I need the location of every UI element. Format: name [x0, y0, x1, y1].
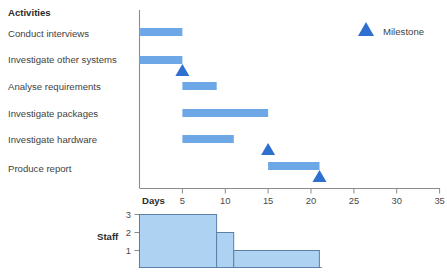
x-axis-label: Days [142, 195, 165, 206]
gantt-bar-analyse-requirements [182, 82, 216, 90]
x-tick-label-25: 25 [349, 195, 359, 206]
gantt-chart-figure: Activities Conduct interviews Investigat… [0, 0, 447, 280]
activity-label-1: Investigate other systems [8, 54, 117, 65]
milestone-triangle-icon-day21 [313, 170, 327, 182]
staff-histogram-step-1 [234, 251, 320, 268]
x-tick-label-35: 35 [434, 195, 444, 206]
staff-tick-label-3: 3 [126, 209, 131, 220]
gantt-bar-investigate-packages [182, 109, 268, 117]
staff-tick-label-2: 2 [126, 227, 131, 238]
milestone-triangle-icon-day15 [261, 143, 275, 155]
legend: Milestone [358, 22, 424, 37]
milestone-triangle-icon-day5 [175, 64, 189, 76]
x-axis-ticks [182, 189, 439, 194]
x-tick-label-30: 30 [391, 195, 401, 206]
gantt-bar-produce-report [268, 162, 319, 170]
x-tick-label-5: 5 [180, 195, 185, 206]
x-tick-label-10: 10 [220, 195, 230, 206]
staff-y-ticks [135, 215, 140, 251]
legend-milestone-label: Milestone [383, 26, 424, 37]
activity-label-5: Produce report [8, 163, 72, 174]
activity-label-3: Investigate packages [8, 108, 98, 119]
activity-label-4: Investigate hardware [8, 134, 97, 145]
activities-column-header: Activities [8, 7, 51, 18]
staff-histogram-step-3 [140, 215, 217, 268]
staff-histogram-step-2 [217, 233, 234, 268]
x-tick-label-15: 15 [263, 195, 273, 206]
activity-label-0: Conduct interviews [8, 28, 89, 39]
gantt-bar-investigate-hardware [182, 135, 233, 143]
x-tick-label-20: 20 [306, 195, 316, 206]
staff-axis-label: Staff [97, 231, 119, 242]
gantt-bar-conduct-interviews [140, 28, 183, 36]
staff-tick-label-1: 1 [126, 245, 131, 256]
activity-label-2: Analyse requirements [8, 81, 101, 92]
gantt-bar-investigate-other-systems [140, 56, 183, 64]
legend-milestone-triangle-icon [358, 22, 374, 36]
